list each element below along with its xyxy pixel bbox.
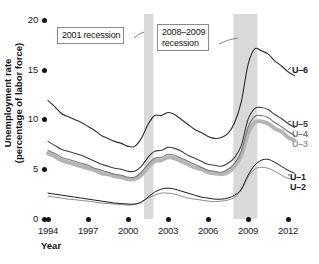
series-label-u1: U–1	[290, 172, 306, 182]
series-line-u6	[48, 48, 295, 147]
x-tick-dot-2000	[126, 217, 131, 222]
y-tick-dot-15	[42, 68, 47, 73]
x-tick-label-1994: 1994	[32, 225, 64, 236]
leader-u5	[288, 121, 291, 122]
y-tick-dot-5	[42, 167, 47, 172]
x-tick-label-2000: 2000	[112, 225, 144, 236]
y-tick-dot-20	[42, 18, 47, 23]
y-axis-title: Unemployment rate (percentage of labor f…	[2, 28, 24, 178]
x-axis-title: Year	[41, 240, 61, 251]
x-tick-dot-2006	[206, 217, 211, 222]
series-label-u2: U–2	[290, 182, 306, 192]
x-tick-label-2003: 2003	[152, 225, 184, 236]
series-label-u5: U–5	[292, 119, 308, 129]
annotation-2008-2009-recession: 2008–2009 recession	[157, 24, 209, 51]
x-tick-dot-2012	[286, 217, 291, 222]
unemployment-rate-chart: 20151050 1994199720002003200620092012 Un…	[0, 0, 319, 264]
y-tick-label-0: 0	[16, 213, 38, 224]
series-label-u6: U–6	[292, 65, 308, 75]
leader-2001	[134, 32, 144, 38]
x-tick-dot-1997	[86, 217, 91, 222]
x-tick-dot-2003	[166, 217, 171, 222]
x-tick-label-2009: 2009	[232, 225, 264, 236]
y-tick-label-20: 20	[16, 14, 38, 25]
series-line-u2	[48, 167, 295, 205]
series-label-u3: U–3	[292, 139, 308, 149]
x-tick-label-2006: 2006	[192, 225, 224, 236]
recession-2001	[144, 14, 153, 219]
annotation-2001-recession: 2001 recession	[57, 27, 124, 44]
leader-u6	[288, 67, 291, 70]
y-tick-dot-10	[42, 117, 47, 122]
x-tick-label-1997: 1997	[72, 225, 104, 236]
x-tick-dot-1994	[46, 217, 51, 222]
x-tick-label-2012: 2012	[272, 225, 304, 236]
series-label-u4: U–4	[292, 129, 308, 139]
series-line-u3	[48, 121, 295, 179]
x-tick-dot-2009	[246, 217, 251, 222]
